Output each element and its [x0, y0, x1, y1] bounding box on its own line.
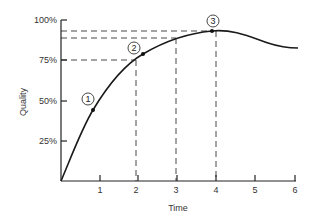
y-tick-75: 75% — [39, 55, 57, 65]
quality-time-chart: 100% 75% 50% 25% 1 2 3 4 5 6 Time Qualit… — [0, 0, 311, 220]
x-tick-3: 3 — [173, 185, 178, 195]
marker-1-label: 1 — [85, 94, 90, 104]
point-3-dot — [210, 29, 214, 33]
y-tick-100: 100% — [34, 15, 57, 25]
x-tick-6: 6 — [292, 185, 297, 195]
x-tick-5: 5 — [252, 185, 257, 195]
y-tick-50: 50% — [39, 96, 57, 106]
axes — [61, 20, 296, 181]
x-axis-label: Time — [168, 203, 188, 213]
x-tick-1: 1 — [97, 185, 102, 195]
reference-lines — [61, 31, 216, 181]
y-tick-25: 25% — [39, 136, 57, 146]
quality-curve — [61, 31, 298, 181]
marker-3: 3 — [207, 15, 219, 27]
x-tick-2: 2 — [133, 185, 138, 195]
x-tick-4: 4 — [213, 185, 218, 195]
point-1-dot — [91, 108, 95, 112]
marker-2-label: 2 — [131, 43, 136, 53]
y-axis-label: Quality — [18, 87, 28, 116]
point-2-dot — [141, 52, 145, 56]
marker-3-label: 3 — [210, 16, 215, 26]
marker-2: 2 — [128, 42, 140, 54]
marker-1: 1 — [82, 93, 94, 105]
